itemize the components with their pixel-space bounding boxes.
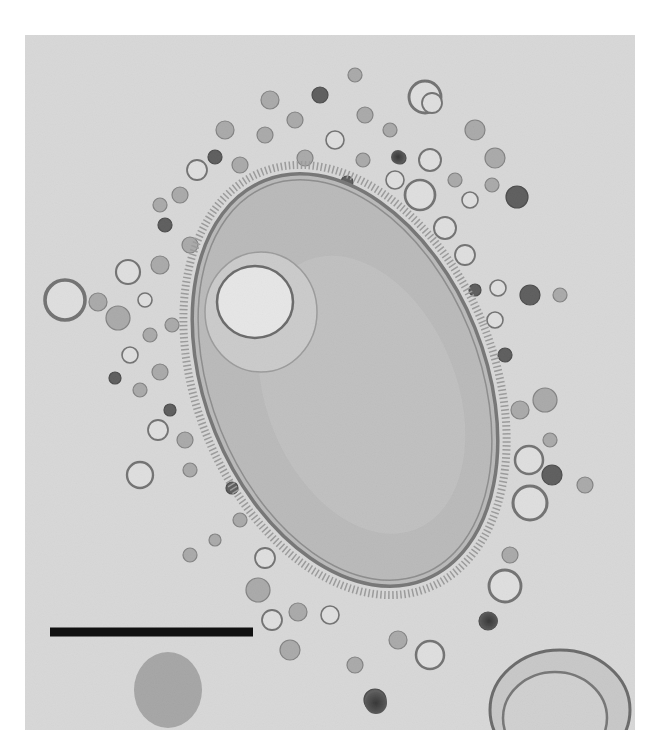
electron-micrograph: [25, 35, 635, 730]
scale-bar: [50, 628, 253, 637]
grain-texture: [25, 35, 635, 730]
micrograph-canvas: [25, 35, 635, 730]
